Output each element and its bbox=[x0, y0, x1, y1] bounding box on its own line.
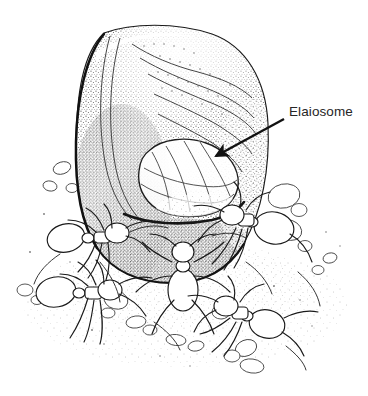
figure-root: Elaiosome bbox=[0, 0, 368, 396]
seed-ant-illustration bbox=[0, 0, 368, 396]
elaiosome-label: Elaiosome bbox=[289, 104, 353, 120]
